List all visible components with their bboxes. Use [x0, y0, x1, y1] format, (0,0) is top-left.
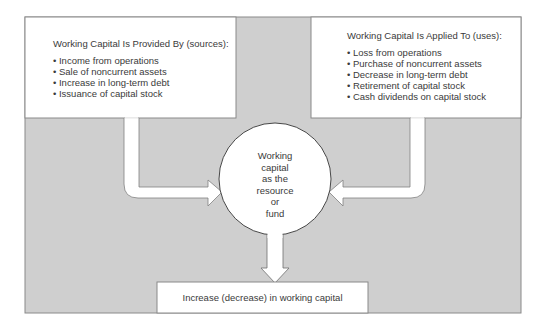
circle-label: Working capital as the resource or fund	[225, 150, 325, 219]
uses-panel: Working Capital Is Applied To (uses): Lo…	[347, 30, 519, 102]
uses-title: Working Capital Is Applied To (uses):	[347, 30, 519, 41]
list-item: Cash dividends on capital stock	[347, 91, 519, 102]
result-label: Increase (decrease) in working capital	[157, 292, 368, 303]
list-item: Income from operations	[53, 55, 233, 66]
list-item: Loss from operations	[347, 47, 519, 58]
uses-list: Loss from operations Purchase of noncurr…	[347, 47, 519, 102]
list-item: Issuance of capital stock	[53, 88, 233, 99]
sources-list: Income from operations Sale of noncurren…	[53, 55, 233, 99]
sources-panel: Working Capital Is Provided By (sources)…	[53, 38, 233, 99]
list-item: Decrease in long-term debt	[347, 69, 519, 80]
list-item: Increase in long-term debt	[53, 77, 233, 88]
list-item: Retirement of capital stock	[347, 80, 519, 91]
list-item: Purchase of noncurrent assets	[347, 58, 519, 69]
list-item: Sale of noncurrent assets	[53, 66, 233, 77]
sources-title: Working Capital Is Provided By (sources)…	[53, 38, 233, 49]
